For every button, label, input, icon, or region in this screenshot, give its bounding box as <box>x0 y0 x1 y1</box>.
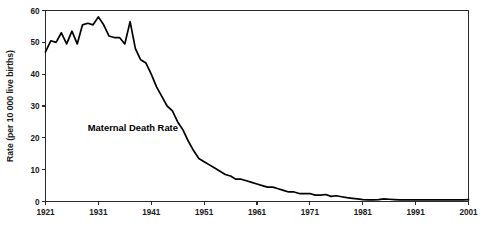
x-tick-label: 1951 <box>195 208 214 217</box>
y-tick-label: 30 <box>30 102 40 111</box>
maternal-death-rate-line-chart: 0102030405060 19211931194119511961197119… <box>0 0 484 227</box>
y-axis-title: Rate (per 10 000 live births) <box>5 50 15 162</box>
x-tick-label: 2001 <box>459 208 478 217</box>
y-tick-label: 0 <box>35 198 40 207</box>
x-tick-label: 1941 <box>142 208 161 217</box>
y-tick-label: 40 <box>30 70 40 79</box>
series-annotation-maternal-death-rate: Maternal Death Rate <box>88 122 178 133</box>
y-tick-label: 50 <box>30 38 40 47</box>
x-tick-label: 1991 <box>407 208 426 217</box>
y-tick-label: 20 <box>30 134 40 143</box>
x-tick-label: 1921 <box>36 208 55 217</box>
x-tick-label: 1931 <box>89 208 108 217</box>
x-tick-label: 1981 <box>354 208 373 217</box>
figure-container: 0102030405060 19211931194119511961197119… <box>0 0 484 227</box>
y-tick-label: 60 <box>30 7 40 16</box>
x-tick-label: 1971 <box>301 208 320 217</box>
y-tick-label: 10 <box>30 166 40 175</box>
x-tick-label: 1961 <box>248 208 267 217</box>
